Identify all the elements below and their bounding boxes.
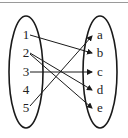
arrow-1-to-b — [30, 35, 92, 53]
domain-label-1: 1 — [23, 27, 30, 42]
codomain-label-d: d — [97, 82, 104, 97]
codomain-label-a: a — [97, 27, 103, 42]
mapping-diagram: 1 2 3 4 5 a b c d e — [0, 0, 128, 138]
domain-label-4: 4 — [23, 82, 30, 97]
domain-label-2: 2 — [23, 45, 30, 60]
codomain-label-c: c — [97, 64, 103, 79]
codomain-label-b: b — [97, 45, 104, 60]
codomain-label-e: e — [97, 100, 103, 115]
domain-label-5: 5 — [23, 100, 30, 115]
domain-label-3: 3 — [23, 64, 30, 79]
